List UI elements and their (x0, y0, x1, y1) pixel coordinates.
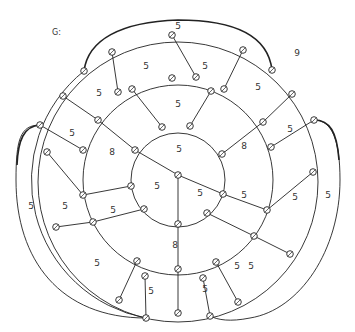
face-degree-label: 5 (176, 144, 182, 154)
face-degree-label: 5 (241, 190, 247, 200)
face-degree-label: 5 (202, 284, 208, 294)
vertex-node (287, 251, 294, 258)
heavy-arc-left (16, 125, 146, 318)
graph-edge (40, 125, 83, 150)
face-degree-label: 5 (202, 61, 208, 71)
graph-edge (112, 52, 118, 92)
vertex-node (175, 221, 182, 228)
vertex-node (289, 91, 296, 98)
vertex-node (80, 147, 87, 154)
face-labels: 59555555588555555555855555 (28, 21, 331, 296)
vertex-node (240, 47, 247, 54)
graph-edge (267, 172, 313, 210)
graph-edge (119, 261, 137, 300)
vertex-node (208, 88, 215, 95)
vertex-node (221, 86, 228, 93)
face-degree-label: 5 (154, 181, 160, 191)
vertex-node (141, 206, 148, 213)
vertex-node (235, 299, 242, 306)
outer-boundary-left (31, 71, 146, 318)
vertex-node (219, 151, 226, 158)
heavy-arc-left-start (17, 125, 40, 165)
face-degree-label: 5 (175, 99, 181, 109)
face-degree-label: 5 (94, 258, 100, 268)
graph-edge (263, 94, 292, 122)
vertex-node (204, 210, 211, 217)
graph-diagram: 59555555588555555555855555 G: (0, 0, 355, 332)
face-degree-label: 5 (143, 61, 149, 71)
vertex-node (175, 266, 182, 273)
vertex-node (269, 67, 276, 74)
vertex-node (175, 310, 182, 317)
vertex-node (213, 259, 220, 266)
face-degree-label: 5 (110, 205, 116, 215)
face-degree-label: 5 (248, 261, 254, 271)
vertex-node (220, 191, 227, 198)
heavy-arc-right-start (314, 120, 339, 160)
face-degree-label: 5 (62, 201, 68, 211)
graph-edge (47, 152, 83, 195)
vertex-node (37, 122, 44, 129)
graph-edge (254, 236, 290, 254)
graph-edge (83, 186, 131, 195)
vertex-node (260, 119, 267, 126)
face-degree-label: 8 (172, 240, 178, 250)
center-node (175, 172, 182, 179)
vertex-node (159, 124, 166, 131)
vertex-node (264, 207, 271, 214)
vertex-node (128, 183, 135, 190)
vertex-node (115, 89, 122, 96)
graph-edge (224, 50, 243, 89)
vertex-node (169, 32, 176, 39)
vertex-node (193, 74, 200, 81)
vertex-node (207, 313, 214, 320)
vertex-node (80, 192, 87, 199)
face-degree-label: 8 (241, 141, 247, 151)
face-degree-label: 5 (28, 201, 34, 211)
heavy-arc-right (210, 120, 340, 320)
vertex-node (187, 123, 194, 130)
face-degree-label: 5 (234, 261, 240, 271)
vertex-node (81, 68, 88, 75)
vertex-node (142, 273, 149, 280)
face-degree-label: 5 (255, 82, 261, 92)
vertex-node (311, 117, 318, 124)
graph-edge (93, 209, 144, 222)
vertex-node (116, 297, 123, 304)
vertex-node (109, 49, 116, 56)
vertex-node (134, 258, 141, 265)
graph-edge (172, 35, 196, 77)
vertex-node (129, 86, 136, 93)
vertex-node (44, 149, 51, 156)
face-degree-label: 5 (69, 128, 75, 138)
graph-title: G: (52, 28, 61, 37)
graph-edge (145, 276, 146, 318)
graph-edge (190, 91, 211, 126)
vertex-node (310, 169, 317, 176)
vertex-node (268, 144, 275, 151)
face-degree-label: 9 (294, 48, 300, 58)
graph-edge (98, 120, 135, 150)
vertex-node (143, 315, 150, 322)
vertex-node (169, 75, 176, 82)
graph-edge (135, 150, 178, 175)
vertex-node (132, 147, 139, 154)
face-degree-label: 5 (325, 190, 331, 200)
vertex-node (251, 233, 258, 240)
face-degree-label: 5 (175, 21, 181, 31)
face-degree-label: 5 (287, 124, 293, 134)
face-degree-label: 5 (197, 188, 203, 198)
vertex-node (60, 93, 67, 100)
graph-edge (63, 96, 98, 120)
vertex-node (53, 224, 60, 231)
face-degree-label: 8 (109, 147, 115, 157)
face-degree-label: 5 (148, 286, 154, 296)
graph-edge (132, 89, 162, 127)
ring-circles (31, 42, 318, 322)
face-degree-label: 5 (292, 192, 298, 202)
vertex-node (95, 117, 102, 124)
vertex-node (90, 219, 97, 226)
graph-edge (56, 222, 93, 227)
face-degree-label: 5 (96, 88, 102, 98)
graph-edge (207, 213, 254, 236)
